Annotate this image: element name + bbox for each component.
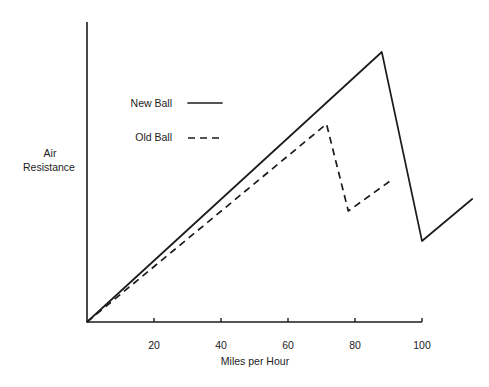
chart: 20406080100 Air Resistance Miles per Hou… [0,0,489,387]
legend-label-old-ball: Old Ball [135,131,172,143]
x-ticks: 20406080100 [148,318,431,351]
x-axis-label: Miles per Hour [221,355,290,367]
x-tick-label-20: 20 [148,339,160,351]
legend-label-new-ball: New Ball [131,97,172,109]
x-tick-label-60: 60 [282,339,294,351]
y-axis-label-line-2: Resistance [23,161,75,173]
x-tick-label-40: 40 [215,339,227,351]
x-tick-label-100: 100 [413,339,431,351]
legend-item-new-ball: New Ball [131,97,222,109]
series-line-old-ball [87,124,390,322]
axes: 20406080100 [87,22,431,351]
series-line-new-ball [87,52,472,322]
y-axis-label-line-1: Air [44,147,57,159]
x-tick-label-80: 80 [349,339,361,351]
legend: New Ball Old Ball [131,97,222,143]
series-group [87,52,472,322]
legend-item-old-ball: Old Ball [135,131,222,143]
